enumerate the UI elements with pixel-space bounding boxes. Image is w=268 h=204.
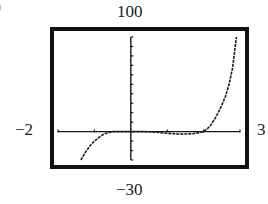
- coordinate-axes: [58, 37, 240, 160]
- graph-screen-frame: [52, 29, 247, 167]
- function-curve: [81, 37, 237, 160]
- axis-ticks: [58, 37, 240, 160]
- calculator-graph: [0, 0, 268, 204]
